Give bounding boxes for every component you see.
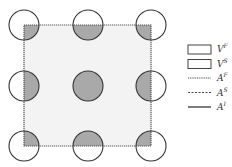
legend-item-af: AF (188, 71, 229, 83)
legend-swatch (188, 60, 211, 69)
legend-label: AS (216, 86, 228, 98)
legend-swatch (188, 45, 211, 54)
legend: VFVSAFASAI (188, 42, 229, 112)
legend-label: AI (216, 100, 227, 112)
unit-cell (9, 10, 166, 161)
legend-item-as: AS (188, 86, 228, 98)
unit-cell-diagram: VFVSAFASAI (0, 0, 232, 167)
legend-item-ai: AI (188, 100, 227, 112)
legend-item-vf: VF (188, 42, 229, 54)
legend-label: AF (216, 71, 229, 83)
legend-label: VS (217, 57, 228, 69)
legend-item-vs: VS (188, 57, 228, 69)
solid-phase (9, 10, 166, 161)
legend-label: VF (217, 42, 229, 54)
